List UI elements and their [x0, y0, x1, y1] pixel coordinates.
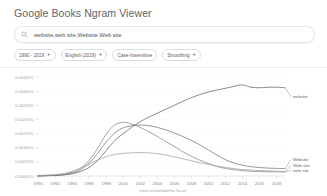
chevron-down-icon: ▼: [98, 53, 102, 57]
x-axis: [38, 176, 285, 179]
x-tick-label: 2006: [169, 181, 179, 186]
ngram-chart[interactable]: 0.00000%0.00050%0.00100%0.00150%0.00200%…: [0, 68, 327, 196]
x-tick-label: 2014: [238, 181, 248, 186]
chart-legend[interactable]: websiteWebsiteWeb siteweb site: [285, 88, 310, 173]
x-tick-label: 2010: [204, 181, 214, 186]
smoothing-chip-label: Smoothing: [167, 53, 189, 58]
y-tick-label: 0.00350%: [15, 75, 34, 80]
search-icon: [18, 31, 31, 38]
chevron-down-icon: ▼: [47, 53, 51, 57]
chart-canvas[interactable]: 0.00000%0.00050%0.00100%0.00150%0.00200%…: [0, 68, 327, 196]
y-tick-label: 0.00150%: [15, 131, 34, 136]
x-tick-label: 2000: [118, 181, 128, 186]
series-line[interactable]: [38, 125, 285, 176]
x-tick-label: 2004: [152, 181, 162, 186]
legend-item-label[interactable]: website: [293, 94, 308, 99]
corpus-chip[interactable]: English (2019) ▼: [61, 49, 108, 61]
y-tick-label: 0.00300%: [15, 89, 34, 94]
corpus-chip-label: English (2019): [66, 53, 96, 58]
case-insensitive-chip-label: Case-Insensitive: [117, 53, 152, 58]
smoothing-chip[interactable]: Smoothing ▼: [162, 49, 201, 61]
y-tick-label: 0.00100%: [15, 145, 34, 150]
date-range-chip-label: 1990 - 2019: [19, 53, 44, 58]
date-range-chip[interactable]: 1990 - 2019 ▼: [14, 49, 56, 61]
series-line[interactable]: [38, 85, 285, 176]
x-tick-label: 2016: [255, 181, 265, 186]
chart-gridlines: [36, 77, 286, 176]
x-tick-label: 1990: [33, 181, 43, 186]
x-tick-label: 1996: [84, 181, 94, 186]
x-tick-label: 2012: [221, 181, 231, 186]
legend-item-label[interactable]: web site: [293, 168, 309, 173]
y-tick-label: 0.00250%: [15, 103, 34, 108]
legend-item-label[interactable]: Web site: [293, 163, 310, 168]
filter-chips-row: 1990 - 2019 ▼ English (2019) ▼ Case-Inse…: [14, 49, 327, 61]
x-tick-label: 2018: [272, 181, 282, 186]
chart-caption: (click on line/label for focus): [140, 189, 188, 193]
search-bar[interactable]: website,web site,Website,Web site: [14, 26, 315, 43]
y-tick-label: 0.00200%: [15, 117, 34, 122]
y-tick-label: 0.00000%: [15, 174, 34, 179]
x-tick-label: 1992: [50, 181, 60, 186]
chart-series[interactable]: [38, 85, 285, 176]
page-title: Google Books Ngram Viewer: [14, 7, 327, 20]
legend-item-label[interactable]: Website: [293, 157, 309, 162]
x-axis-tick-labels: 1990199219941996199820002002200420062008…: [33, 181, 282, 186]
app-header: Google Books Ngram Viewer: [0, 0, 327, 20]
y-axis-tick-labels: 0.00000%0.00050%0.00100%0.00150%0.00200%…: [15, 75, 34, 179]
search-input[interactable]: website,web site,Website,Web site: [31, 32, 122, 38]
chevron-down-icon: ▼: [192, 53, 196, 57]
x-tick-label: 1998: [101, 181, 111, 186]
y-tick-label: 0.00050%: [15, 159, 34, 164]
x-tick-label: 2002: [135, 181, 145, 186]
case-insensitive-chip[interactable]: Case-Insensitive: [112, 49, 157, 61]
series-line[interactable]: [38, 122, 285, 175]
x-tick-label: 1994: [67, 181, 77, 186]
x-tick-label: 2008: [187, 181, 197, 186]
